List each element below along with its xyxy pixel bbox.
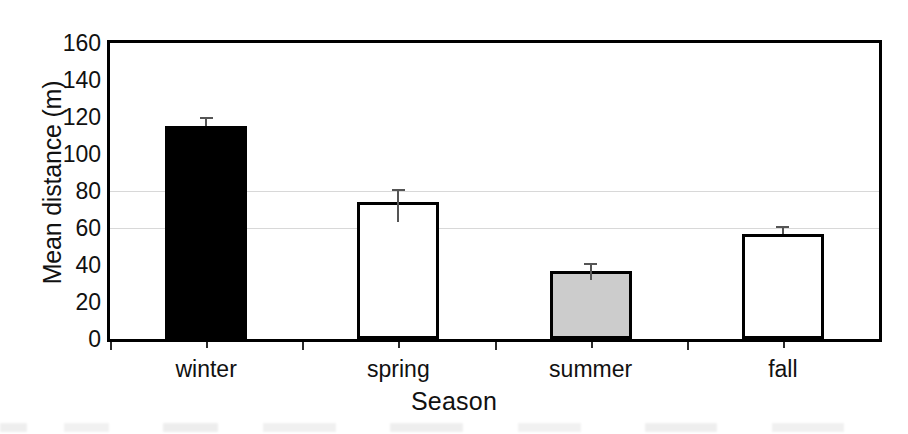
y-tick-label: 20	[0, 289, 101, 316]
x-category-label-summer: summer	[549, 356, 632, 383]
bar-summer	[550, 271, 632, 339]
error-bar-lower-summer	[590, 271, 592, 280]
bar-winter	[165, 126, 247, 339]
bar-spring	[357, 202, 439, 339]
bar-fall	[742, 234, 824, 339]
y-tick-label: 80	[0, 178, 101, 205]
y-tick-label: 0	[0, 326, 101, 353]
error-bar-lower-spring	[397, 202, 399, 222]
y-tick-label: 40	[0, 252, 101, 279]
y-tick-label: 120	[0, 104, 101, 131]
x-tick-mark	[495, 342, 497, 350]
error-bar-cap-summer	[584, 263, 597, 265]
x-tick-mark	[206, 342, 208, 348]
y-tick-label: 60	[0, 215, 101, 242]
x-category-label-winter: winter	[175, 356, 236, 383]
x-tick-mark	[302, 342, 304, 350]
y-tick-label: 160	[0, 30, 101, 57]
x-category-label-spring: spring	[367, 356, 430, 383]
y-tick-label: 140	[0, 67, 101, 94]
error-bar-cap-winter	[200, 117, 213, 119]
scan-artifact	[0, 423, 908, 432]
x-tick-mark	[110, 342, 112, 350]
error-bar-cap-fall	[776, 226, 789, 228]
plot-area	[110, 43, 879, 339]
x-axis-title: Season	[0, 387, 908, 416]
x-tick-mark	[687, 342, 689, 350]
y-tick-label: 100	[0, 141, 101, 168]
x-tick-mark	[398, 342, 400, 348]
error-bar-cap-spring	[392, 189, 405, 191]
bar-chart-figure: Mean distance (m) 020406080100120140160 …	[0, 0, 908, 434]
x-tick-mark	[783, 342, 785, 348]
x-category-label-fall: fall	[768, 356, 797, 383]
x-tick-mark	[591, 342, 593, 348]
